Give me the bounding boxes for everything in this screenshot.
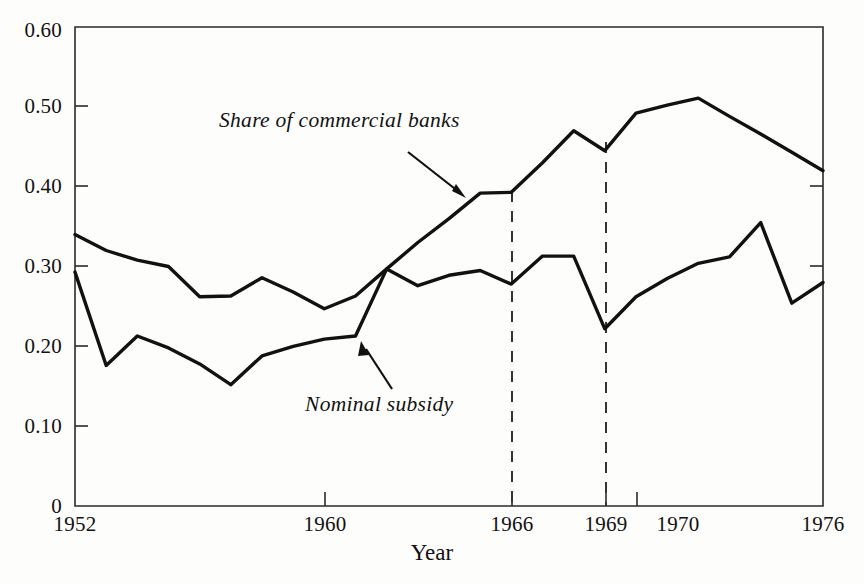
chart-figure: 0.60 0.50 0.40 0.30 0.20 0.10 0 1952 196…	[0, 0, 864, 584]
xtick-label-1970: 1970	[637, 512, 719, 537]
annotation-arrows	[358, 152, 466, 389]
arrow-head-share-of-commercial-banks	[452, 184, 466, 198]
ytick-label-030: 0.30	[0, 254, 62, 279]
xtick-label-1976: 1976	[782, 512, 864, 537]
series-line-nominal-subsidy	[75, 223, 823, 385]
xtick-label-1966: 1966	[471, 512, 553, 537]
arrow-line-nominal-subsidy	[366, 349, 392, 389]
plot-border	[75, 27, 823, 506]
ytick-label-010: 0.10	[0, 414, 62, 439]
chart-plot-area	[0, 0, 864, 584]
x-axis-ticks	[325, 492, 637, 506]
y-axis-ticks-right	[810, 186, 823, 266]
reference-lines	[512, 142, 606, 506]
ytick-label-020: 0.20	[0, 334, 62, 359]
y-axis-ticks	[75, 106, 88, 426]
x-axis-title: Year	[0, 540, 864, 566]
xtick-label-1969: 1969	[565, 512, 647, 537]
arrow-line-share-of-commercial-banks	[408, 152, 459, 192]
arrow-head-nominal-subsidy	[358, 341, 369, 356]
xtick-label-1960: 1960	[284, 512, 366, 537]
ytick-label-040: 0.40	[0, 174, 62, 199]
axis-frame	[75, 27, 823, 506]
xtick-label-1952: 1952	[34, 512, 116, 537]
ytick-label-050: 0.50	[0, 94, 62, 119]
annotation-share-of-commercial-banks: Share of commercial banks	[219, 108, 460, 133]
annotation-nominal-subsidy: Nominal subsidy	[305, 392, 453, 417]
ytick-label-060: 0.60	[0, 18, 62, 43]
